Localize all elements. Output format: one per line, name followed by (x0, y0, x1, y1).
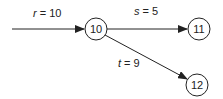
network-diagram: r = 10 s = 5 t = 9 10 11 12 (0, 0, 223, 99)
node-10: 10 (85, 18, 107, 40)
node-label: 11 (193, 23, 204, 35)
edge-label-r: r = 10 (33, 7, 61, 19)
node-11: 11 (188, 18, 210, 40)
node-12: 12 (186, 74, 208, 96)
node-label: 10 (90, 23, 102, 35)
edge-label-s: s = 5 (134, 5, 158, 17)
node-label: 12 (191, 79, 203, 91)
edge-label-t: t = 9 (118, 57, 140, 69)
